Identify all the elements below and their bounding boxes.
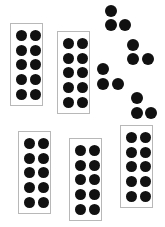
counter-dot [126,147,137,158]
counter-dot [75,204,86,215]
loose-counter-dot [119,19,131,31]
counter-dot [38,138,49,149]
counter-dot [30,89,41,100]
counter-dot [30,74,41,85]
counter-dot [16,30,27,41]
counter-dot [75,160,86,171]
counter-dot [89,145,100,156]
ten-frame [10,23,43,106]
counter-dot [126,191,137,202]
loose-counter-dot [131,107,143,119]
counter-dot [77,82,88,93]
counter-dot [38,197,49,208]
loose-counter-dot [127,39,139,51]
counter-dot [77,67,88,78]
counter-dot [89,204,100,215]
counter-dot [24,138,35,149]
counter-dot [140,161,151,172]
counter-dot [75,189,86,200]
counter-dot [89,189,100,200]
counter-dot [24,197,35,208]
counter-dot [24,167,35,178]
counter-dot [16,59,27,70]
counter-dot [140,191,151,202]
counter-dot [89,174,100,185]
counter-dot [38,153,49,164]
counter-dot [75,174,86,185]
counter-dot [126,161,137,172]
loose-counter-dot [97,78,109,90]
ten-frame [120,125,153,208]
ten-frame [69,138,102,221]
loose-counter-dot [105,19,117,31]
counter-dot [63,97,74,108]
counter-dot [38,182,49,193]
counter-dot [63,38,74,49]
counter-dot [63,67,74,78]
counter-dot [16,45,27,56]
counter-dot [16,89,27,100]
counter-dot [77,38,88,49]
counter-dot [75,145,86,156]
counter-dot [89,160,100,171]
counter-dot [38,167,49,178]
counter-dot [24,153,35,164]
loose-counter-dot [131,92,143,104]
counter-dot [126,176,137,187]
counter-dot [140,176,151,187]
counter-dot [126,132,137,143]
ten-frame [57,31,90,114]
counter-dot [140,132,151,143]
counter-dot [30,45,41,56]
counter-dot [77,97,88,108]
loose-counter-dot [142,53,154,65]
loose-counter-dot [105,5,117,17]
counter-dot [140,147,151,158]
counter-dot [63,53,74,64]
loose-counter-dot [97,63,109,75]
loose-counter-dot [112,78,124,90]
counter-dot [16,74,27,85]
counter-dot [77,53,88,64]
ten-frame [18,131,51,214]
loose-counter-dot [145,107,157,119]
counter-dot [30,59,41,70]
counter-dot [24,182,35,193]
counter-dot [30,30,41,41]
counter-dot [63,82,74,93]
loose-counter-dot [127,53,139,65]
